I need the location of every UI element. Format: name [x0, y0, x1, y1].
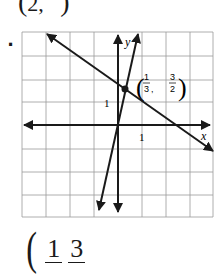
svg-text:3: 3: [170, 72, 175, 82]
svg-text:): ): [178, 73, 187, 102]
svg-text:2: 2: [170, 84, 175, 94]
svg-text:,: ,: [151, 84, 154, 94]
numerator-2: 3: [68, 236, 85, 263]
intersection-point: [122, 86, 129, 93]
intersection-label: ( 13 , 32 ): [136, 72, 187, 102]
x-tick-1: 1: [139, 131, 145, 143]
svg-text:3: 3: [144, 84, 149, 94]
line-decreasing: [47, 34, 213, 151]
numerator-1: 1: [45, 236, 62, 263]
svg-text:1: 1: [144, 72, 149, 82]
y-tick-1: 1: [104, 97, 110, 109]
y-axis-label: y: [124, 35, 131, 49]
open-paren: (: [26, 226, 37, 272]
next-answer-fragment: ( 1 3: [24, 226, 85, 272]
x-axis-label: x: [200, 129, 207, 143]
